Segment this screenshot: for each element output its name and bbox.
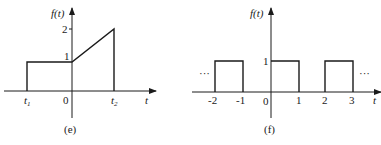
ellipsis-left: ··· [199, 67, 210, 79]
figure-canvas: f(t) 2 1 t1 0 t2 t (e) ··· ··· f(t) 1 -2… [0, 0, 381, 145]
xtick-0-e: 0 [63, 94, 69, 106]
xtick-neg1-f: -1 [236, 94, 245, 106]
pulse-neg2-neg1 [215, 61, 243, 92]
pulse-2-3 [325, 61, 353, 92]
plot-f: ··· ··· f(t) 1 -2 -1 0 1 2 3 t (f) [192, 7, 381, 136]
xlabel-e: t [145, 94, 149, 106]
ytick-1-f: 1 [263, 55, 269, 67]
xtick-3-f: 3 [349, 94, 355, 106]
xtick-0-f: 0 [263, 95, 269, 107]
ellipsis-right: ··· [359, 67, 370, 79]
xtick-t2-e: t2 [111, 94, 118, 108]
ylabel-e: f(t) [51, 7, 65, 20]
caption-f: (f) [264, 123, 275, 136]
xlabel-f: t [373, 94, 377, 106]
ytick-2-e: 2 [62, 23, 68, 35]
ylabel-f: f(t) [250, 7, 264, 20]
xtick-neg2-f: -2 [208, 94, 217, 106]
xtick-t1-e: t1 [24, 94, 31, 108]
pulse-0-1 [271, 61, 299, 92]
signal-e [27, 29, 114, 91]
xtick-1-f: 1 [296, 94, 302, 106]
caption-e: (e) [64, 123, 77, 136]
ytick-1-e: 1 [64, 50, 70, 62]
plot-e: f(t) 2 1 t1 0 t2 t (e) [4, 7, 156, 136]
xtick-2-f: 2 [322, 94, 328, 106]
